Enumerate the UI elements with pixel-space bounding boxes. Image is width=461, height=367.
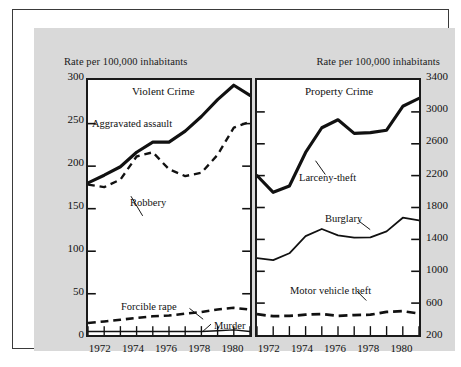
violent-ytick-250: 250 [52, 114, 84, 125]
violent-ytick-50: 50 [52, 286, 84, 297]
violent-y-ticks [88, 124, 96, 294]
violent-xtick-1980: 1980 [216, 343, 249, 354]
figure-grey-plate: Rate per 100,000 inhabitants 300 250 200… [34, 28, 455, 351]
violent-xtick-1974: 1974 [116, 343, 149, 354]
label-motor-vehicle-theft: Motor vehicle theft [290, 286, 371, 297]
violent-xtick-1972: 1972 [83, 343, 116, 354]
label-aggravated-assault: Aggravated assault [92, 119, 172, 130]
property-axis-caption: Rate per 100,000 inhabitants [316, 56, 440, 67]
violent-xtick-1976: 1976 [150, 343, 183, 354]
property-ytick-1800: 1800 [426, 200, 461, 211]
property-xtick-1974: 1974 [285, 343, 318, 354]
property-crime-title: Property Crime [305, 85, 373, 97]
label-forcible-rape: Forcible rape [121, 302, 177, 313]
violent-ytick-300: 300 [52, 71, 84, 82]
figure-outer-frame: Rate per 100,000 inhabitants 300 250 200… [12, 9, 449, 349]
violent-plot-area: Violent Crime Aggravated assault Robbery… [86, 78, 252, 337]
property-xtick-1978: 1978 [352, 343, 385, 354]
property-ytick-200: 200 [426, 329, 461, 340]
label-murder: Murder [214, 321, 246, 332]
property-ytick-600: 600 [426, 297, 461, 308]
violent-axis-caption: Rate per 100,000 inhabitants [64, 56, 188, 67]
property-ytick-2200: 2200 [426, 168, 461, 179]
series-robbery [88, 122, 250, 187]
series-motor-vehicle-theft [257, 311, 419, 316]
property-x-ticks [257, 326, 419, 335]
property-ytick-1000: 1000 [426, 264, 461, 275]
property-ytick-3400: 3400 [426, 71, 461, 82]
panel-violent-crime: Rate per 100,000 inhabitants 300 250 200… [55, 46, 253, 351]
violent-ytick-200: 200 [52, 157, 84, 168]
property-ytick-1400: 1400 [426, 232, 461, 243]
property-ytick-2600: 2600 [426, 135, 461, 146]
label-robbery: Robbery [130, 198, 166, 209]
violent-ytick-150: 150 [52, 200, 84, 211]
property-xtick-1976: 1976 [319, 343, 352, 354]
property-plot-area: Property Crime Larceny-theft Burglary Mo… [255, 78, 421, 337]
property-xtick-1972: 1972 [252, 343, 285, 354]
violent-ytick-0: 0 [52, 329, 84, 340]
panel-property-crime: Rate per 100,000 inhabitants 3400 3000 2… [254, 46, 452, 351]
violent-xtick-1978: 1978 [183, 343, 216, 354]
label-larceny-theft: Larceny-theft [299, 173, 356, 184]
violent-y-ticks-right [242, 124, 250, 294]
violent-ytick-100: 100 [52, 243, 84, 254]
property-y-ticks-left [257, 112, 265, 303]
property-y-ticks-right [411, 112, 419, 303]
label-burglary: Burglary [325, 214, 362, 225]
property-xtick-1980: 1980 [385, 343, 418, 354]
series-violent-crime-total [88, 85, 250, 183]
figure-root: Rate per 100,000 inhabitants 300 250 200… [0, 0, 461, 367]
violent-crime-title: Violent Crime [132, 85, 195, 97]
property-crime-line-chart [257, 80, 419, 335]
property-ytick-3000: 3000 [426, 103, 461, 114]
